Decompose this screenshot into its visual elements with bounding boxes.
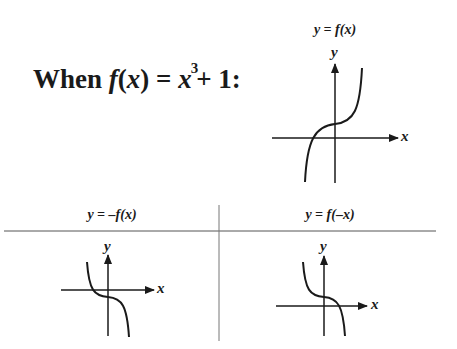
graphs-canvas — [0, 0, 457, 349]
graph-reflect-y — [276, 256, 367, 336]
curve-original — [305, 68, 362, 182]
graph-original — [272, 64, 398, 183]
graph-reflect-x — [61, 255, 154, 337]
